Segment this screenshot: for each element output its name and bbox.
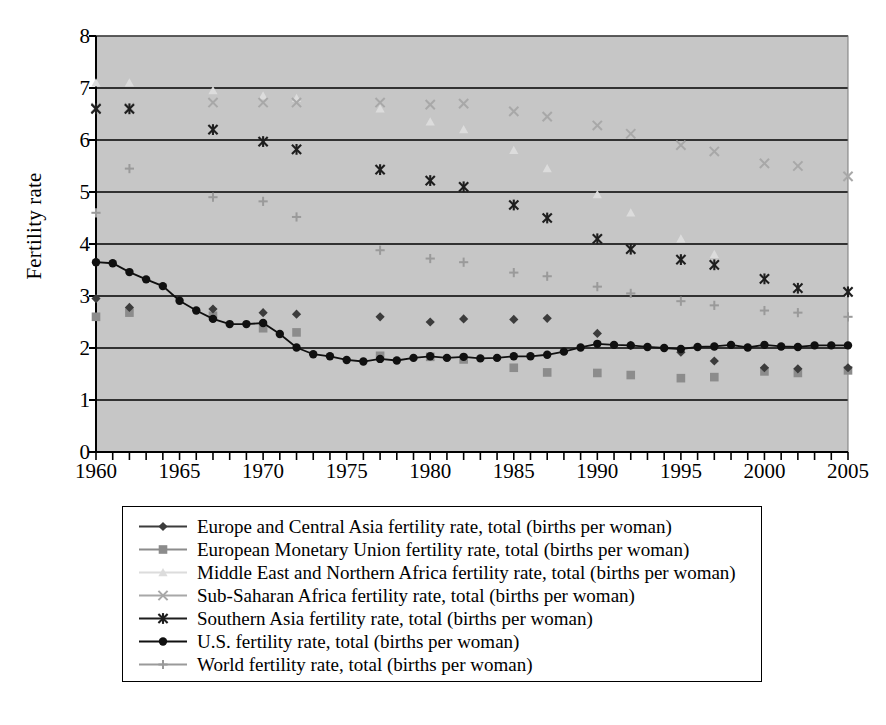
marker-circle [326, 352, 334, 360]
chart-figure: Fertility rate 876543210 196019651970197… [0, 0, 886, 725]
marker-circle [677, 345, 685, 353]
marker-circle [359, 357, 367, 365]
legend-swatch [135, 561, 191, 584]
marker-circle [426, 352, 434, 360]
marker-circle [526, 352, 534, 360]
marker-square [92, 313, 101, 322]
legend-swatch [135, 538, 191, 561]
marker-circle [476, 354, 484, 362]
marker-square [292, 328, 301, 337]
marker-circle [459, 353, 467, 361]
marker-circle [309, 350, 317, 358]
marker-diamond [158, 522, 167, 531]
marker-circle [827, 341, 835, 349]
marker-circle [175, 296, 183, 304]
marker-circle [92, 258, 100, 266]
marker-circle [810, 341, 818, 349]
legend-item[interactable]: Southern Asia fertility rate, total (bir… [135, 607, 761, 630]
marker-circle [159, 282, 167, 290]
marker-circle [794, 343, 802, 351]
legend-marker-triangle [135, 561, 191, 584]
marker-circle [660, 344, 668, 352]
legend-marker-plus [135, 653, 191, 676]
legend-label: Southern Asia fertility rate, total (bir… [197, 607, 761, 630]
chart-legend: Europe and Central Asia fertility rate, … [122, 506, 762, 682]
legend-swatch [135, 630, 191, 653]
legend-label: Sub-Saharan Africa fertility rate, total… [197, 584, 761, 607]
marker-circle [744, 343, 752, 351]
legend-item[interactable]: Sub-Saharan Africa fertility rate, total… [135, 584, 761, 607]
legend-label: Middle East and Northern Africa fertilit… [197, 561, 761, 584]
marker-circle [376, 355, 384, 363]
marker-circle [225, 320, 233, 328]
legend-marker-diamond [135, 515, 191, 538]
marker-circle [693, 343, 701, 351]
marker-circle [342, 356, 350, 364]
marker-square [677, 374, 686, 383]
marker-circle [443, 354, 451, 362]
legend-swatch [135, 653, 191, 676]
legend-swatch [135, 607, 191, 630]
marker-circle [543, 351, 551, 359]
marker-circle [409, 354, 417, 362]
legend-item[interactable]: Middle East and Northern Africa fertilit… [135, 561, 761, 584]
legend-item[interactable]: Europe and Central Asia fertility rate, … [135, 515, 761, 538]
marker-circle [109, 259, 117, 267]
marker-circle [593, 340, 601, 348]
marker-circle [727, 341, 735, 349]
marker-circle [292, 343, 300, 351]
marker-circle [159, 637, 167, 645]
marker-circle [710, 342, 718, 350]
marker-circle [276, 330, 284, 338]
legend-label: U.S. fertility rate, total (births per w… [197, 630, 761, 653]
legend-swatch [135, 515, 191, 538]
marker-circle [576, 343, 584, 351]
marker-circle [192, 306, 200, 314]
legend-marker-asterisk [135, 607, 191, 630]
marker-circle [242, 320, 250, 328]
marker-square [159, 545, 168, 554]
legend-label: European Monetary Union fertility rate, … [197, 538, 761, 561]
marker-circle [125, 268, 133, 276]
marker-circle [627, 341, 635, 349]
marker-circle [209, 315, 217, 323]
marker-circle [142, 275, 150, 283]
marker-square [543, 368, 552, 377]
legend-swatch [135, 584, 191, 607]
marker-circle [610, 341, 618, 349]
marker-square [509, 363, 518, 372]
legend-item[interactable]: World fertility rate, total (births per … [135, 653, 761, 676]
marker-circle [560, 347, 568, 355]
marker-circle [777, 342, 785, 350]
marker-square [593, 369, 602, 378]
marker-square [710, 373, 719, 382]
marker-circle [493, 354, 501, 362]
legend-label: Europe and Central Asia fertility rate, … [197, 515, 761, 538]
marker-square [626, 371, 635, 380]
legend-marker-cross [135, 584, 191, 607]
marker-circle [393, 356, 401, 364]
marker-circle [259, 319, 267, 327]
legend-label: World fertility rate, total (births per … [197, 653, 761, 676]
legend-marker-square [135, 538, 191, 561]
legend-item[interactable]: U.S. fertility rate, total (births per w… [135, 630, 761, 653]
marker-circle [643, 343, 651, 351]
legend-item[interactable]: European Monetary Union fertility rate, … [135, 538, 761, 561]
marker-circle [844, 341, 852, 349]
legend-marker-circle [135, 630, 191, 653]
marker-circle [510, 352, 518, 360]
marker-circle [760, 341, 768, 349]
